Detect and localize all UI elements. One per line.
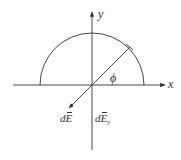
dE-symbol: E — [66, 113, 73, 124]
vector-bar-icon — [67, 112, 73, 113]
vector-bar-icon — [102, 112, 108, 113]
dE-vector-label: dE — [60, 113, 72, 124]
dEy-vector-label: dEy — [95, 113, 110, 126]
y-axis-label: y — [98, 8, 103, 20]
angle-phi-label: ϕ — [110, 72, 116, 84]
x-axis-label: x — [168, 78, 173, 90]
field-diagram — [0, 0, 181, 160]
dEy-symbol: E — [101, 113, 108, 124]
dE-vector-arrow — [69, 85, 92, 108]
dEy-subscript: y — [107, 118, 110, 126]
